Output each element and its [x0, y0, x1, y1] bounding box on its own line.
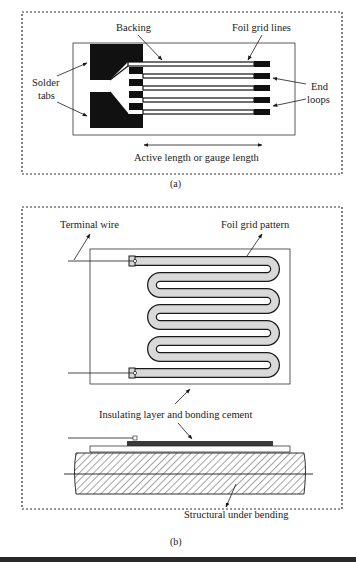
label-active-length: Active length or gauge length	[134, 152, 260, 163]
page-bottom-rule	[0, 557, 356, 562]
label-backing: Backing	[116, 22, 152, 33]
label-insulating-layer: Insulating layer and bonding cement	[99, 409, 252, 420]
label-solder-tabs-1: Solder	[32, 77, 60, 88]
backing-substrate-b	[90, 249, 290, 384]
caption-b: (b)	[170, 536, 182, 548]
label-end-loops-1: End	[311, 81, 329, 92]
structural-beam	[75, 453, 306, 494]
label-structural: Structural under bending	[184, 509, 289, 520]
caption-a: (a)	[170, 178, 181, 190]
insulating-layer-side	[90, 446, 290, 452]
label-solder-tabs-2: tabs	[38, 90, 55, 101]
label-foil-grid-lines: Foil grid lines	[232, 22, 291, 33]
figure-a: Backing Foil grid lines Solder tabs End …	[22, 12, 342, 190]
label-foil-grid-pattern: Foil grid pattern	[221, 219, 290, 230]
figure-b: Terminal wire Foil grid pattern Insulati…	[22, 207, 342, 548]
strain-gauge-diagram: Backing Foil grid lines Solder tabs End …	[0, 0, 356, 562]
label-terminal-wire: Terminal wire	[60, 219, 119, 230]
foil-side-view	[127, 441, 273, 446]
label-end-loops-2: loops	[307, 94, 330, 105]
